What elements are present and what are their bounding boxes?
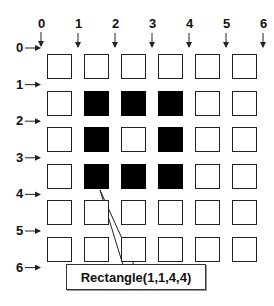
row-label-6: 6 bbox=[16, 261, 23, 274]
row-label-2: 2 bbox=[16, 114, 23, 127]
pixel-empty bbox=[47, 237, 72, 262]
pixel-empty bbox=[121, 237, 146, 262]
pixel-empty bbox=[121, 54, 146, 79]
pixel-filled bbox=[158, 91, 183, 116]
pixel-empty bbox=[232, 127, 257, 152]
pixel-empty bbox=[84, 237, 109, 262]
row-label-1: 1 bbox=[16, 78, 23, 91]
pixel-empty bbox=[158, 200, 183, 225]
pixel-filled bbox=[84, 164, 109, 189]
pixel-empty bbox=[84, 200, 109, 225]
row-arrows bbox=[25, 48, 40, 268]
column-arrows bbox=[41, 32, 263, 47]
pixel-empty bbox=[84, 54, 109, 79]
row-label-4: 4 bbox=[16, 187, 23, 200]
pixel-empty bbox=[232, 200, 257, 225]
pixel-filled bbox=[121, 91, 146, 116]
pixel-empty bbox=[195, 237, 220, 262]
pixel-filled bbox=[158, 164, 183, 189]
column-label-2: 2 bbox=[112, 17, 119, 30]
rectangle-callout: Rectangle(1,1,4,4) bbox=[66, 264, 206, 290]
pixel-empty bbox=[195, 127, 220, 152]
pixel-empty bbox=[195, 91, 220, 116]
callout-label: Rectangle(1,1,4,4) bbox=[81, 270, 192, 285]
pixel-empty bbox=[195, 54, 220, 79]
pixel-empty bbox=[195, 164, 220, 189]
pixel-empty bbox=[195, 200, 220, 225]
pixel-filled bbox=[121, 164, 146, 189]
row-label-5: 5 bbox=[16, 224, 23, 237]
pixel-empty bbox=[47, 164, 72, 189]
pixel-empty bbox=[232, 164, 257, 189]
column-label-5: 5 bbox=[223, 17, 230, 30]
column-label-0: 0 bbox=[38, 17, 45, 30]
pixel-empty bbox=[121, 200, 146, 225]
column-label-6: 6 bbox=[260, 17, 267, 30]
pixel-empty bbox=[158, 54, 183, 79]
pixel-filled bbox=[84, 127, 109, 152]
row-label-0: 0 bbox=[16, 41, 23, 54]
column-label-4: 4 bbox=[186, 17, 193, 30]
column-label-1: 1 bbox=[75, 17, 82, 30]
pixel-empty bbox=[47, 200, 72, 225]
pixel-empty bbox=[232, 237, 257, 262]
column-label-3: 3 bbox=[149, 17, 156, 30]
pixel-empty bbox=[121, 127, 146, 152]
row-label-3: 3 bbox=[16, 151, 23, 164]
pixel-filled bbox=[158, 127, 183, 152]
pixel-empty bbox=[47, 54, 72, 79]
pixel-empty bbox=[47, 127, 72, 152]
pixel-empty bbox=[158, 237, 183, 262]
pixel-empty bbox=[232, 91, 257, 116]
pixel-empty bbox=[47, 91, 72, 116]
pixel-empty bbox=[232, 54, 257, 79]
pixel-filled bbox=[84, 91, 109, 116]
